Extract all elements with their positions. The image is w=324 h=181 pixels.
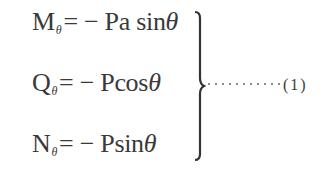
equation-moment: Mθ= − Pa sinθ bbox=[32, 9, 178, 36]
symbol-q: Q bbox=[32, 68, 50, 97]
rhs: = − Psin bbox=[59, 129, 144, 158]
symbol-m: M bbox=[32, 7, 55, 36]
equation-number: (1) bbox=[283, 77, 308, 93]
symbol-n: N bbox=[32, 129, 50, 158]
equation-normal: Nθ= − Psinθ bbox=[32, 131, 156, 158]
theta: θ bbox=[144, 129, 156, 158]
equation-shear: Qθ= − Pcosθ bbox=[32, 70, 161, 97]
subscript-theta: θ bbox=[51, 84, 57, 98]
theta: θ bbox=[148, 68, 160, 97]
right-brace-icon bbox=[192, 10, 206, 162]
subscript-theta: θ bbox=[51, 145, 57, 159]
subscript-theta: θ bbox=[56, 23, 62, 37]
rhs: = − Pcos bbox=[59, 68, 148, 97]
theta: θ bbox=[166, 7, 178, 36]
dotted-leader bbox=[207, 78, 284, 90]
rhs: = − Pa sin bbox=[63, 7, 165, 36]
